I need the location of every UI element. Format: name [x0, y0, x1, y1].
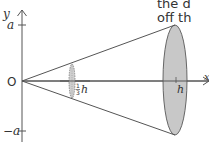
svg-text:3: 3: [76, 89, 80, 96]
base-disc: [163, 25, 187, 135]
tick-label-a: a: [7, 18, 14, 32]
svg-text:h: h: [81, 83, 88, 96]
y-axis: [18, 10, 27, 142]
tick-label-neg-a: −a: [3, 124, 20, 138]
overflow-text-line-2: off th: [157, 11, 191, 25]
cone-edge-bottom: [22, 81, 175, 135]
svg-text:1: 1: [76, 82, 80, 89]
cone-diagram: y a O −a 1 3 h h x the d off th: [0, 0, 209, 142]
cone-edge-top: [22, 25, 175, 81]
x-axis-label: x: [204, 71, 209, 82]
origin-label: O: [7, 75, 16, 89]
slice-label: 1 3 h: [76, 82, 89, 96]
height-label: h: [177, 83, 184, 96]
